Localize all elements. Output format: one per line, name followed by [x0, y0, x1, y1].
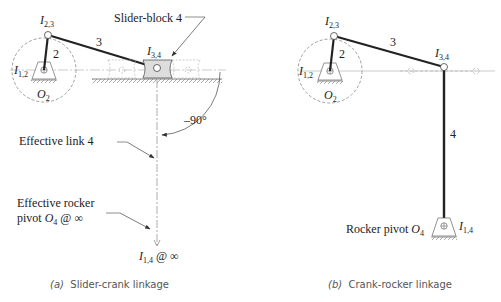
label-link2-a: 2: [53, 48, 59, 60]
caption-b: (b) Crank-rocker linkage: [328, 279, 452, 290]
label-rocker-pivot: Rocker pivot O4: [346, 223, 424, 238]
label-link2-b: 2: [339, 48, 345, 60]
label-o2-b: O2: [324, 89, 337, 104]
label-o2-a: O2: [37, 88, 50, 103]
label-effective-rocker-2: pivot O4 @ ∞: [17, 212, 83, 227]
label-slider-block: Slider-block 4: [114, 12, 182, 24]
label-angle: –90°: [184, 114, 207, 126]
label-i12-a: I1,2: [14, 64, 28, 79]
label-i23-a: I2,3: [40, 14, 54, 29]
label-i12-b: I1,2: [299, 65, 313, 80]
label-link4-b: 4: [450, 128, 456, 140]
label-effective-link: Effective link 4: [19, 135, 93, 147]
label-i34-a: I3,4: [147, 45, 161, 60]
label-link3-b: 3: [390, 36, 396, 48]
label-link3-a: 3: [96, 36, 102, 48]
panel-b-crank-rocker: [298, 33, 495, 241]
label-i14-a: I1,4 @ ∞: [139, 250, 179, 265]
linkage-diagram: [0, 0, 501, 302]
label-i23-b: I2,3: [325, 15, 339, 30]
label-effective-rocker-1: Effective rocker: [17, 197, 94, 209]
label-i34-b: I3,4: [435, 47, 449, 62]
caption-a: (a) Slider-crank linkage: [50, 279, 169, 290]
label-i14-b: I1,4: [459, 220, 473, 235]
